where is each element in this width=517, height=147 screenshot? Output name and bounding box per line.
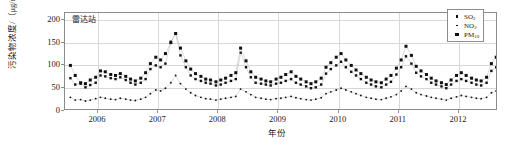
- data-point: [235, 95, 237, 97]
- data-point: [80, 99, 82, 101]
- data-point: [260, 97, 262, 99]
- series-no2: [69, 75, 497, 102]
- data-point: [340, 61, 342, 63]
- data-point: [145, 96, 147, 98]
- data-point: [335, 64, 337, 66]
- data-point: [410, 88, 412, 90]
- data-point: [325, 72, 327, 74]
- data-point: [300, 98, 302, 100]
- data-point: [230, 80, 232, 82]
- data-point: [185, 88, 187, 90]
- data-point: [425, 78, 427, 80]
- data-point: [299, 78, 302, 81]
- legend-item-no2[interactable]: NO2: [451, 21, 479, 30]
- data-point: [400, 58, 403, 61]
- data-point: [480, 79, 483, 82]
- legend-item-pm10[interactable]: PM10: [451, 30, 479, 39]
- data-point: [415, 72, 417, 74]
- legend-item-so2[interactable]: SO2: [451, 12, 479, 21]
- x-tick-mark: [277, 110, 278, 113]
- data-point: [370, 79, 373, 82]
- data-point: [84, 82, 87, 85]
- data-point: [200, 80, 202, 82]
- data-point: [430, 77, 433, 80]
- data-point: [435, 97, 437, 99]
- data-point: [435, 79, 438, 82]
- data-point: [129, 82, 131, 84]
- data-point: [420, 94, 422, 96]
- data-point: [89, 84, 91, 86]
- data-point: [144, 78, 146, 80]
- data-point: [155, 89, 157, 91]
- data-point: [486, 96, 488, 98]
- data-point: [159, 58, 162, 61]
- data-point: [405, 85, 407, 87]
- data-point: [139, 77, 142, 80]
- data-point: [380, 99, 382, 101]
- data-point: [260, 78, 263, 81]
- data-point: [104, 97, 106, 99]
- data-point: [279, 76, 282, 79]
- data-point: [325, 93, 327, 95]
- data-point: [465, 95, 467, 97]
- legend[interactable]: SO2 NO2 PM10: [447, 9, 484, 42]
- data-point: [224, 77, 227, 80]
- data-point: [435, 83, 437, 85]
- data-point: [205, 82, 207, 84]
- data-point: [140, 82, 142, 84]
- data-point: [154, 56, 157, 59]
- data-point: [390, 96, 392, 98]
- data-point: [185, 66, 187, 68]
- data-point: [420, 69, 423, 72]
- data-point: [254, 76, 257, 79]
- x-tick-mark: [97, 110, 98, 113]
- data-point: [355, 68, 358, 71]
- data-point: [134, 83, 136, 85]
- data-point: [370, 83, 372, 85]
- data-point: [460, 78, 462, 80]
- chart-figure: 污染物浓度/（μg/m³） 050100150200 2006200720082…: [0, 0, 517, 147]
- data-point: [109, 73, 112, 76]
- data-series-layer: [65, 13, 497, 110]
- data-point: [264, 79, 267, 82]
- data-point: [245, 59, 248, 62]
- no2-marker-icon: [451, 25, 463, 27]
- data-point: [225, 97, 227, 99]
- data-point: [240, 88, 242, 90]
- y-axis-title: 污染物浓度/（μg/m³）: [5, 0, 19, 74]
- data-point: [79, 81, 82, 84]
- data-point: [400, 66, 402, 68]
- data-point: [329, 61, 332, 64]
- x-tick-mark: [338, 110, 339, 113]
- data-point: [119, 72, 122, 75]
- data-point: [100, 96, 102, 98]
- data-point: [219, 79, 222, 82]
- data-point: [375, 98, 377, 100]
- data-point: [210, 98, 212, 100]
- data-point: [209, 79, 212, 82]
- data-point: [180, 83, 182, 85]
- data-point: [325, 66, 328, 69]
- data-point: [475, 97, 477, 99]
- data-point: [320, 97, 322, 99]
- data-point: [270, 99, 272, 101]
- data-point: [149, 93, 151, 95]
- data-point: [440, 81, 443, 84]
- data-point: [375, 85, 377, 87]
- data-point: [164, 62, 166, 64]
- data-point: [450, 79, 453, 82]
- data-point: [465, 80, 467, 82]
- data-point: [344, 58, 347, 61]
- data-point: [430, 82, 432, 84]
- data-point: [99, 74, 101, 76]
- series-pm10: [69, 32, 497, 86]
- data-point: [134, 79, 137, 82]
- x-tick-mark: [157, 110, 158, 113]
- data-point: [215, 84, 217, 86]
- x-tick-label: 2008: [197, 114, 237, 124]
- data-point: [159, 66, 161, 68]
- data-point: [285, 80, 287, 82]
- data-point: [250, 94, 252, 96]
- data-point: [140, 98, 142, 100]
- data-point: [309, 82, 312, 85]
